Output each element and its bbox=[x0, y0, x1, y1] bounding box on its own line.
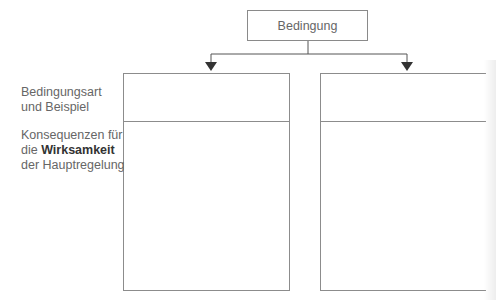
arrow-down-right-icon bbox=[401, 62, 413, 71]
label-line: Konsequenzen für bbox=[21, 128, 125, 143]
row-divider bbox=[124, 121, 289, 122]
label-line: und Beispiel bbox=[21, 100, 102, 115]
page-edge-shadow bbox=[484, 60, 496, 300]
label-line: der Hauptregelung bbox=[21, 158, 125, 173]
connector-arrows bbox=[0, 0, 496, 80]
row-divider bbox=[321, 121, 486, 122]
column-right bbox=[320, 73, 486, 291]
row-label-consequences: Konsequenzen für die Wirksamkeit der Hau… bbox=[21, 128, 125, 173]
label-bold-text: Wirksamkeit bbox=[41, 143, 115, 157]
arrow-down-left-icon bbox=[205, 62, 217, 71]
column-left bbox=[123, 73, 290, 291]
label-text: die bbox=[21, 143, 41, 157]
label-line: die Wirksamkeit bbox=[21, 143, 125, 158]
row-label-condition-type: Bedingungsart und Beispiel bbox=[21, 85, 102, 115]
label-line: Bedingungsart bbox=[21, 85, 102, 100]
